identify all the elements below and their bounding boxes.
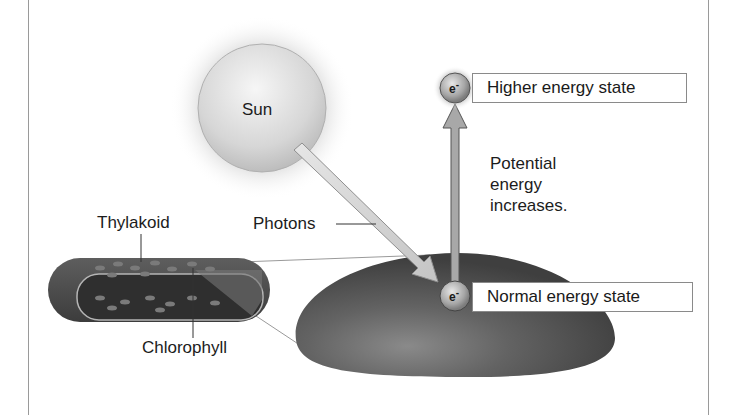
- diagram-artwork: [0, 0, 730, 415]
- photons-label: Photons: [253, 214, 315, 234]
- sun-label: Sun: [242, 100, 272, 120]
- photon-arrow: [294, 143, 438, 282]
- higher-energy-state-label: Higher energy state: [487, 78, 635, 97]
- thylakoid-disc: [48, 258, 270, 322]
- thylakoid-label: Thylakoid: [97, 213, 170, 233]
- higher-electron-symbol: e-: [449, 79, 459, 96]
- normal-energy-state-label: Normal energy state: [487, 287, 640, 306]
- normal-energy-state-box: Normal energy state: [472, 282, 693, 312]
- higher-energy-state-box: Higher energy state: [472, 73, 687, 103]
- normal-electron-symbol: e-: [449, 287, 459, 304]
- potential-energy-text: Potential energy increases.: [490, 153, 567, 216]
- potential-line-3: increases.: [490, 195, 567, 216]
- potential-line-1: Potential: [490, 153, 567, 174]
- potential-line-2: energy: [490, 174, 567, 195]
- chlorophyll-label: Chlorophyll: [142, 338, 227, 358]
